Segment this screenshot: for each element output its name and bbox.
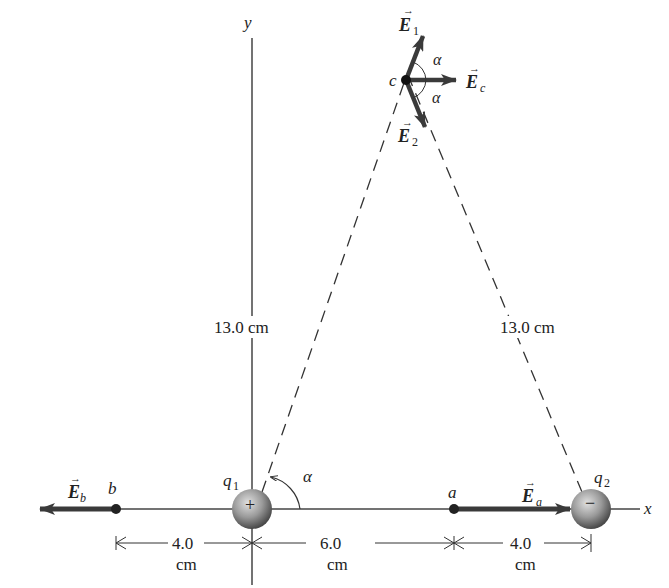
vector-Ea-label: → E a: [521, 476, 542, 509]
charge-q2-sign: −: [585, 493, 595, 513]
dashed-line-q1-c: [262, 80, 405, 492]
vector-E1: [406, 36, 423, 80]
point-c-label: c: [389, 71, 397, 90]
angle-arc-alpha-upper: [413, 62, 426, 80]
alpha-label-upper: α: [433, 51, 442, 68]
alpha-label-q1: α: [303, 467, 313, 486]
point-b-label: b: [108, 479, 117, 498]
alpha-label-lower: α: [432, 89, 441, 106]
electric-field-diagram: y x 13.0 cm 13.0 cm α b → E b a → E a + …: [0, 0, 669, 588]
svg-text:cm: cm: [176, 555, 197, 574]
point-b: [111, 504, 121, 514]
svg-text:2: 2: [604, 476, 610, 490]
charge-q2-label: q 2: [594, 468, 610, 490]
angle-arc-alpha-lower: [413, 80, 426, 98]
svg-text:cm: cm: [327, 555, 348, 574]
svg-text:cm: cm: [515, 555, 536, 574]
distance-label-left: 13.0 cm: [214, 318, 269, 337]
distance-a-q2: 4.0 cm: [510, 534, 536, 574]
svg-text:q: q: [223, 471, 232, 490]
angle-arc-alpha-q1: [271, 477, 300, 509]
vector-Ec-label: → E c: [465, 62, 486, 95]
charge-q1-sign: +: [245, 495, 255, 515]
svg-text:b: b: [80, 491, 86, 505]
svg-text:1: 1: [413, 24, 419, 38]
svg-text:E: E: [521, 486, 534, 506]
distance-b-q1: 4.0 cm: [172, 534, 197, 574]
svg-text:4.0: 4.0: [510, 534, 531, 553]
svg-text:q: q: [594, 468, 603, 487]
vector-Eb-label: → E b: [67, 472, 86, 505]
svg-text:4.0: 4.0: [172, 534, 193, 553]
vector-E1-label: → E 1: [398, 4, 419, 38]
x-axis-label: x: [643, 499, 652, 518]
svg-text:2: 2: [412, 135, 418, 149]
svg-text:6.0: 6.0: [320, 534, 341, 553]
charge-q1-label: q 1: [223, 471, 239, 493]
point-c: [401, 75, 411, 85]
dashed-line-q2-c: [410, 80, 582, 492]
svg-text:E: E: [397, 126, 410, 146]
y-axis-label: y: [242, 13, 252, 32]
distance-q1-a: 6.0 cm: [320, 534, 348, 574]
svg-text:1: 1: [233, 479, 239, 493]
vector-E2-label: → E 2: [397, 116, 418, 149]
point-a: [449, 504, 459, 514]
svg-text:E: E: [398, 15, 411, 35]
svg-text:E: E: [67, 482, 80, 502]
svg-text:E: E: [465, 72, 478, 92]
point-a-label: a: [448, 483, 457, 502]
distance-label-right: 13.0 cm: [500, 318, 555, 337]
svg-text:a: a: [536, 495, 542, 509]
svg-text:c: c: [480, 81, 486, 95]
